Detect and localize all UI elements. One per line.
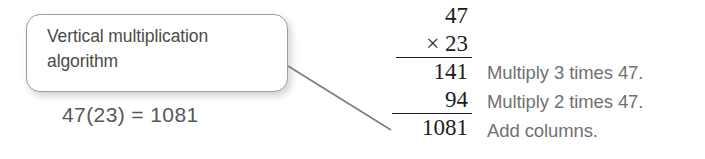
equation-text: 47(23) = 1081 xyxy=(62,103,199,127)
algorithm-row-partial-product-1: 141 xyxy=(392,58,472,86)
algorithm-row-partial-product-2: 94 xyxy=(392,86,472,114)
callout-label: Vertical multiplication algorithm xyxy=(47,24,279,74)
annotation-step-1: Multiply 3 times 47. xyxy=(487,58,643,87)
algorithm-row-multiplicand: 47 xyxy=(392,2,472,30)
callout-box: Vertical multiplication algorithm xyxy=(26,14,288,92)
vertical-multiplication-algorithm: 47 × 23 141 94 1081 xyxy=(392,2,472,142)
algorithm-row-multiplier: × 23 xyxy=(396,30,472,58)
connector-line-segment xyxy=(288,66,391,130)
algorithm-row-product: 1081 xyxy=(392,114,472,142)
step-annotations: Multiply 3 times 47. Multiply 2 times 47… xyxy=(487,58,643,145)
annotation-step-2: Multiply 2 times 47. xyxy=(487,87,643,116)
annotation-step-3: Add columns. xyxy=(487,116,643,145)
